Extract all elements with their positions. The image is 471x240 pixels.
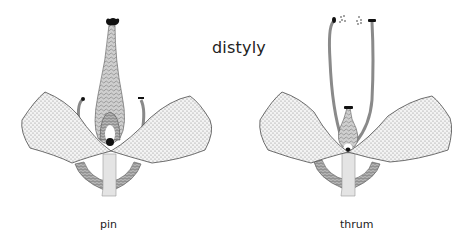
diagram-title: distyly xyxy=(212,38,266,57)
pin-stem xyxy=(102,154,116,196)
thrum-stigma xyxy=(344,106,353,109)
thrum-stamen-left xyxy=(329,22,342,140)
thrum-pollen-right xyxy=(356,16,362,25)
pin-anther-left xyxy=(81,97,85,101)
thrum-pollen-left xyxy=(339,15,346,23)
distyly-diagram xyxy=(0,0,471,240)
thrum-label: thrum xyxy=(340,218,374,231)
pin-flower xyxy=(22,18,212,196)
thrum-style xyxy=(338,108,357,149)
thrum-sepal-left xyxy=(314,160,346,188)
pin-ovule xyxy=(106,138,114,146)
pin-petal-right xyxy=(111,96,212,163)
thrum-flower xyxy=(260,15,452,196)
pin-stigma xyxy=(106,18,119,25)
thrum-anther-left xyxy=(332,17,336,23)
pin-anther-right xyxy=(138,97,144,99)
thrum-stamen-right xyxy=(356,22,373,142)
pin-label: pin xyxy=(100,218,117,231)
thrum-stem xyxy=(341,153,355,196)
thrum-anther-right xyxy=(368,19,376,22)
